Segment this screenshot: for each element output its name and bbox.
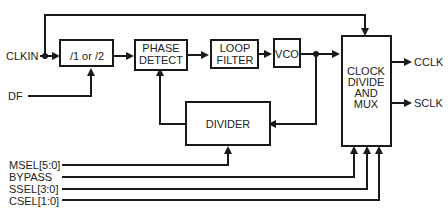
arrow-pd-in: [126, 52, 134, 60]
loop-filter-label-1: LOOP: [220, 42, 251, 54]
clock-block-diagram: /1 or /2 PHASE DETECT LOOP FILTER VCO DI…: [0, 0, 448, 213]
ssel-wire: [62, 148, 367, 189]
phase-detect-label-2: DETECT: [139, 54, 183, 66]
clkin-junction-dot: [42, 53, 48, 59]
arrow-mux-in: [332, 50, 340, 58]
sclk-label: SCLK: [414, 97, 443, 109]
arrow-bypass: [350, 146, 358, 154]
arrow-lf-in: [201, 51, 209, 59]
df-wire: [28, 70, 91, 96]
divider-label: DIVIDER: [206, 118, 251, 130]
msel-label: MSEL[5:0]: [9, 159, 60, 171]
arrow-vco-in: [264, 50, 272, 58]
clkin-label: CLKIN: [6, 50, 38, 62]
vco-label: VCO: [275, 48, 299, 60]
loop-filter-label-2: FILTER: [216, 54, 253, 66]
csel-wire: [62, 148, 379, 200]
arrow-ssel: [363, 146, 371, 154]
arrow-prediv-in: [52, 52, 60, 60]
cclk-label: CCLK: [414, 56, 444, 68]
msel-wire: [62, 148, 228, 165]
df-label: DF: [8, 90, 23, 102]
bypass-wire: [62, 148, 354, 177]
csel-label: CSEL[1:0]: [9, 195, 59, 207]
ssel-label: SSEL[3:0]: [9, 183, 59, 195]
arrow-mux-top: [361, 28, 369, 36]
arrow-msel: [224, 146, 232, 154]
mux-label-4: MUX: [354, 98, 379, 110]
arrow-sclk: [404, 99, 412, 107]
arrow-df: [87, 68, 95, 76]
divider-to-pd-wire: [160, 70, 185, 124]
arrow-csel: [375, 146, 383, 154]
phase-detect-label-1: PHASE: [142, 42, 179, 54]
arrow-cclk: [404, 58, 412, 66]
bypass-label: BYPASS: [9, 171, 52, 183]
vco-junction-dot: [313, 51, 319, 57]
prediv-label: /1 or /2: [70, 50, 104, 62]
